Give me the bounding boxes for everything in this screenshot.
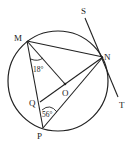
segment-qn bbox=[40, 57, 103, 102]
point-label-o: O bbox=[62, 88, 69, 98]
point-label-q: Q bbox=[29, 98, 36, 108]
angle-label-56: 56° bbox=[42, 110, 53, 119]
point-label-s: S bbox=[81, 6, 86, 16]
circle-geometry-diagram: 18° 56° M N O Q P S T bbox=[0, 0, 131, 142]
point-label-m: M bbox=[14, 33, 22, 43]
center-point-o bbox=[64, 83, 67, 86]
angle-label-18: 18° bbox=[33, 65, 44, 74]
point-label-p: P bbox=[37, 131, 42, 141]
angle-arc-m bbox=[31, 58, 44, 60]
circle bbox=[8, 31, 108, 131]
chord-mp bbox=[27, 41, 43, 128]
point-label-n: N bbox=[104, 52, 111, 62]
point-label-t: T bbox=[119, 100, 125, 110]
